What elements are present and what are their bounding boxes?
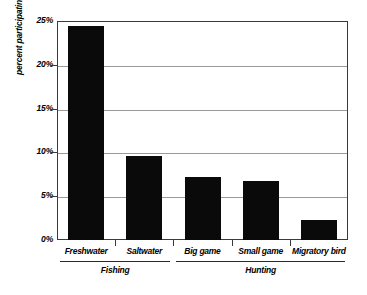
y-tick-label: 5%	[23, 190, 53, 200]
group-label: Fishing	[60, 265, 170, 275]
category-label: Big game	[173, 246, 231, 256]
group-rule	[176, 261, 345, 262]
y-tick-label: 15%	[23, 103, 53, 113]
bar	[185, 177, 221, 240]
bar	[68, 26, 104, 240]
group-rule	[60, 261, 170, 262]
category-label: Migratory bird	[290, 246, 348, 256]
category-label: Saltwater	[115, 246, 173, 256]
group-label: Hunting	[176, 265, 345, 275]
y-tick-label: 25%	[23, 15, 53, 25]
category-label: Freshwater	[57, 246, 115, 256]
bar	[301, 220, 337, 240]
bar-chart: percent participating 0%5%10%15%20%25% F…	[0, 0, 367, 295]
bar	[126, 156, 162, 240]
y-tick-label: 0%	[23, 234, 53, 244]
category-label: Small game	[232, 246, 290, 256]
bars-layer	[57, 21, 348, 240]
bar	[243, 181, 279, 240]
y-tick-label: 20%	[23, 59, 53, 69]
y-tick-label: 10%	[23, 146, 53, 156]
